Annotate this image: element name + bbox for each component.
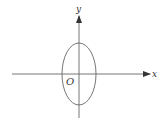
x-axis-label: x [152, 69, 157, 79]
coordinate-diagram: x y O [0, 0, 164, 125]
y-axis-label: y [75, 4, 82, 14]
origin-label: O [66, 76, 74, 87]
